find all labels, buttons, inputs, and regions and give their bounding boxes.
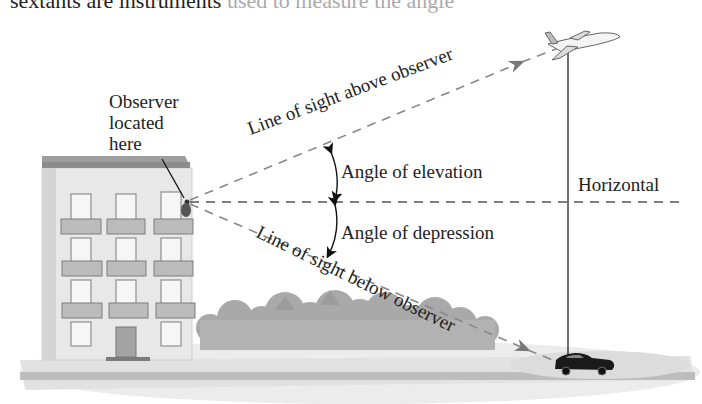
building: [42, 156, 195, 361]
depression-angle-arc: [328, 204, 337, 256]
airplane-icon: [545, 31, 620, 60]
angle-of-depression-label: Angle of depression: [341, 223, 494, 242]
observer-label: Observer located here: [109, 91, 179, 154]
elevation-angle-arc: [331, 152, 337, 200]
observer-figure: [181, 203, 191, 217]
angle-diagram: [0, 0, 702, 404]
observer-label-line-2: located: [109, 112, 179, 133]
observer-label-line-1: Observer: [109, 91, 179, 112]
horizontal-label: Horizontal: [578, 175, 659, 194]
angle-of-elevation-label: Angle of elevation: [341, 162, 482, 181]
observer-label-line-3: here: [109, 133, 179, 154]
